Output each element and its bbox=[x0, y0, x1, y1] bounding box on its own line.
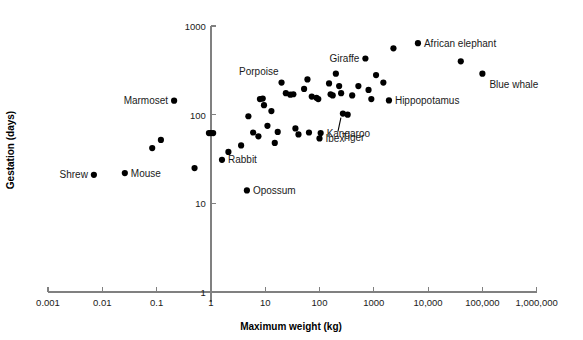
data-point bbox=[330, 92, 336, 98]
data-point bbox=[272, 140, 278, 146]
data-point bbox=[365, 87, 371, 93]
data-point bbox=[355, 83, 361, 89]
data-point bbox=[362, 55, 368, 61]
data-point bbox=[415, 40, 421, 46]
data-point bbox=[292, 125, 298, 131]
data-point bbox=[210, 130, 216, 136]
point-label: Shrew bbox=[60, 169, 89, 180]
point-label: Hippopotamus bbox=[395, 95, 459, 106]
scatter-plot-figure: 0.0010.010.1110100100010,000100,0001,000… bbox=[0, 0, 583, 340]
data-point bbox=[260, 95, 266, 101]
data-point bbox=[91, 172, 97, 178]
data-point bbox=[295, 131, 301, 137]
y-axis-title: Gestation (days) bbox=[5, 111, 16, 189]
data-point bbox=[290, 91, 296, 97]
data-point bbox=[149, 145, 155, 151]
x-axis-ticks: 0.0010.010.1110100100010,000100,0001,000… bbox=[36, 287, 558, 308]
data-point bbox=[245, 113, 251, 119]
data-point bbox=[318, 130, 324, 136]
x-tick-label: 10,000 bbox=[414, 297, 443, 308]
data-point bbox=[316, 135, 322, 141]
data-point bbox=[261, 102, 267, 108]
data-point bbox=[458, 58, 464, 64]
x-tick-label: 0.1 bbox=[150, 297, 163, 308]
data-point bbox=[326, 80, 332, 86]
data-point bbox=[238, 142, 244, 148]
data-point bbox=[122, 170, 128, 176]
data-point bbox=[171, 98, 177, 104]
data-point bbox=[244, 187, 250, 193]
x-tick-label: 100,000 bbox=[465, 297, 499, 308]
data-point bbox=[191, 165, 197, 171]
data-point bbox=[264, 123, 270, 129]
point-label: Opossum bbox=[253, 185, 296, 196]
data-point bbox=[275, 129, 281, 135]
data-point bbox=[386, 97, 392, 103]
data-point bbox=[306, 129, 312, 135]
data-point bbox=[268, 108, 274, 114]
data-point bbox=[479, 71, 485, 77]
data-point bbox=[333, 71, 339, 77]
data-point bbox=[380, 80, 386, 86]
data-point bbox=[373, 72, 379, 78]
point-label: African elephant bbox=[424, 38, 496, 49]
data-point bbox=[315, 96, 321, 102]
data-point bbox=[219, 157, 225, 163]
point-label: Mouse bbox=[131, 168, 161, 179]
data-point bbox=[255, 133, 261, 139]
x-tick-label: 1000 bbox=[363, 297, 384, 308]
point-label: Rabbit bbox=[228, 154, 257, 165]
y-tick-label: 10 bbox=[195, 198, 206, 209]
y-tick-label: 1000 bbox=[185, 21, 206, 32]
data-point bbox=[304, 76, 310, 82]
data-point bbox=[336, 83, 342, 89]
point-labels-group: ShrewMouseMarmosetRabbitOpossumPorpoiseI… bbox=[60, 38, 539, 196]
data-point bbox=[278, 80, 284, 86]
x-tick-label: 0.001 bbox=[36, 297, 60, 308]
y-tick-label: 1 bbox=[201, 287, 206, 298]
point-label: Tiger bbox=[342, 132, 365, 143]
data-point bbox=[390, 45, 396, 51]
point-label: Blue whale bbox=[489, 79, 538, 90]
point-label: Giraffe bbox=[330, 53, 360, 64]
data-point bbox=[349, 92, 355, 98]
x-tick-label: 1,000,000 bbox=[516, 297, 558, 308]
data-point bbox=[345, 112, 351, 118]
point-label: Porpoise bbox=[239, 66, 279, 77]
x-tick-label: 10 bbox=[260, 297, 271, 308]
data-point bbox=[338, 90, 344, 96]
y-tick-label: 100 bbox=[190, 110, 206, 121]
plot-canvas: 0.0010.010.1110100100010,000100,0001,000… bbox=[0, 0, 583, 340]
x-axis-title: Maximum weight (kg) bbox=[240, 321, 342, 332]
data-point bbox=[368, 96, 374, 102]
x-tick-label: 0.01 bbox=[93, 297, 112, 308]
x-tick-label: 100 bbox=[312, 297, 328, 308]
axes-group bbox=[48, 26, 537, 302]
data-point bbox=[301, 86, 307, 92]
data-point bbox=[158, 137, 164, 143]
point-label: Marmoset bbox=[124, 95, 169, 106]
x-tick-label: 1 bbox=[208, 297, 213, 308]
data-point bbox=[250, 129, 256, 135]
